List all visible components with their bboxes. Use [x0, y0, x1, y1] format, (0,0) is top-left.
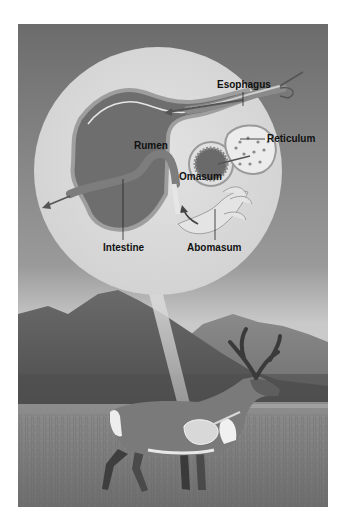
ruminant-stomach-illustration: Esophagus Reticulum Rumen Omasum Intesti…	[18, 24, 328, 507]
label-reticulum: Reticulum	[267, 134, 315, 144]
label-intestine: Intestine	[103, 243, 144, 253]
illustration-canvas	[18, 24, 328, 507]
label-rumen: Rumen	[134, 141, 168, 151]
label-abomasum: Abomasum	[187, 243, 241, 253]
stomach-on-reindeer	[184, 420, 218, 445]
label-omasum: Omasum	[179, 172, 222, 182]
label-esophagus: Esophagus	[217, 80, 271, 90]
